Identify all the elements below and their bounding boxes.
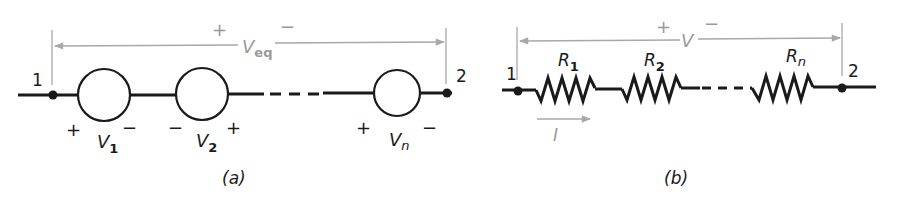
node-2-dot-a [443,89,452,98]
voltage-source-vn-icon [374,70,420,116]
dimension-arrow-left-a [55,45,238,46]
v1-label: V1 [97,131,118,156]
node-1-dot-a [49,91,58,100]
r1-label: R1 [558,50,579,74]
panel-a-voltage-sources-in-series: 1 + − Veq + V1 − − V2 + + Vn − (a) [18,16,452,188]
dimension-arrow-right-b [698,38,840,39]
resistor-r2-icon [622,77,681,100]
v1-left-sign: + [66,119,81,140]
resistor-rn-icon [752,76,813,100]
node-2-dot-b [838,84,847,93]
vn-left-sign: + [356,117,371,138]
v1-right-sign: − [122,117,137,138]
node-1-label-b: 1 [506,64,517,84]
v2-right-sign: + [226,117,241,138]
node-1-dot-b [514,87,523,96]
vn-label: Vn [389,129,410,153]
node-2-label-b: 2 [848,61,859,81]
v-label: V [681,30,695,51]
v2-left-sign: − [168,117,183,138]
caption-b: (b) [664,168,688,188]
veq-label: Veq [242,36,272,60]
series-circuits-figure: 1 + − Veq + V1 − − V2 + + Vn − (a) 1 2 [0,0,898,203]
node-1-label-a: 1 [32,70,43,90]
v2-label: V2 [196,130,217,155]
voltage-source-v2-icon [176,68,228,120]
vn-right-sign: − [422,117,437,138]
r2-label: R2 [644,50,665,74]
node-2-label-a: 2 [456,66,467,86]
v-minus-sign: − [704,13,719,34]
voltage-source-v1-icon [78,69,130,121]
dimension-arrow-left-b [520,40,680,41]
current-label: I [553,125,558,145]
caption-a: (a) [222,168,246,188]
dimension-arrow-right-a [275,42,444,43]
veq-minus-sign: − [280,16,295,37]
rn-label: Rn [786,46,806,69]
panel-b-resistors-in-series: 1 2 + − V R1 R2 Rn I (b) [502,13,876,188]
v-plus-sign: + [656,16,671,37]
resistor-r1-icon [536,78,595,101]
veq-plus-sign: + [212,19,227,40]
